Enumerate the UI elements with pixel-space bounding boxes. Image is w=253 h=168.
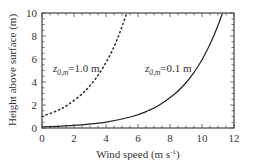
x-tick-label: 8: [167, 132, 173, 144]
y-tick-label: 10: [26, 7, 38, 19]
y-tick-label: 2: [32, 99, 38, 111]
x-tick-label: 12: [229, 132, 240, 144]
y-tick-label: 6: [32, 53, 38, 65]
x-tick-label: 6: [135, 132, 141, 144]
y-tick-label: 4: [32, 76, 38, 88]
y-tick-label: 8: [32, 30, 38, 42]
y-tick-label: 0: [32, 122, 38, 134]
y-axis-label: Height above surface (m): [6, 14, 19, 126]
x-tick-label: 2: [71, 132, 77, 144]
x-tick-label: 0: [39, 132, 45, 144]
x-tick-label: 4: [103, 132, 109, 144]
wind-profile-chart: 0246810120246810 Height above surface (m…: [0, 0, 253, 168]
x-axis-label: Wind speed (m s-1): [96, 148, 180, 161]
annotation-z0-0.1: z0,m=0.1 m: [144, 62, 192, 77]
annotation-z0-1.0: z0,m=1.0 m: [52, 62, 100, 77]
x-tick-label: 10: [197, 132, 209, 144]
